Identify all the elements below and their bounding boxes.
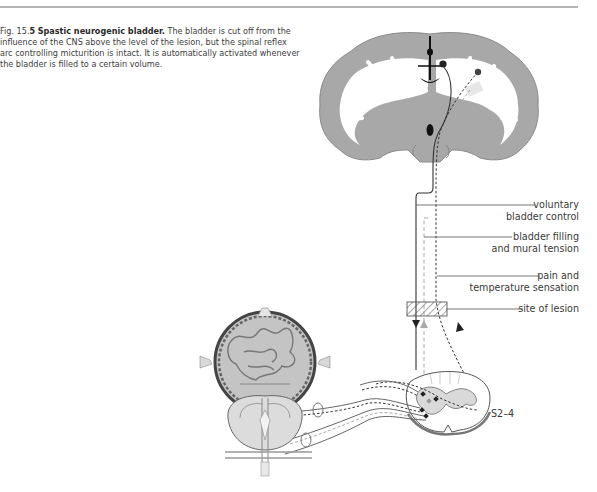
label-pain-temperature: pain and temperature sensation	[469, 270, 579, 295]
label-line: bladder control	[506, 211, 579, 223]
label-voluntary-bladder-control: voluntary bladder control	[506, 199, 579, 224]
label-line: site of lesion	[518, 303, 579, 315]
label-site-of-lesion: site of lesion	[518, 303, 579, 315]
spinal-cord-section	[376, 371, 490, 434]
bladder	[200, 308, 330, 476]
label-bladder-filling: bladder filling and mural tension	[492, 231, 579, 256]
label-spinal-segment: S2–4	[491, 408, 514, 419]
brain-section	[320, 33, 539, 162]
label-line: pain and	[469, 270, 579, 282]
label-line: voluntary	[506, 199, 579, 211]
label-line: bladder filling	[492, 231, 579, 243]
label-line: and mural tension	[492, 243, 579, 255]
lesion-block	[407, 302, 447, 316]
label-line: temperature sensation	[469, 282, 579, 294]
